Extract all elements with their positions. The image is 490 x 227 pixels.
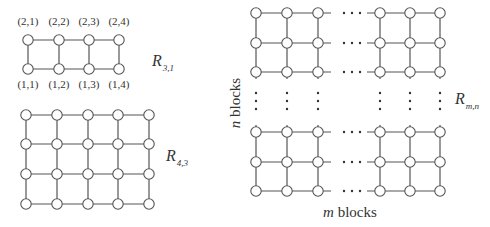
vertex-node — [375, 186, 385, 196]
vertex-node — [251, 8, 261, 18]
vertex-node — [405, 38, 415, 48]
horizontal-ellipsis-dot — [351, 12, 353, 14]
vertex-node — [282, 67, 292, 77]
vertex-label: (2,4) — [108, 15, 129, 28]
vertex-node — [21, 139, 31, 149]
horizontal-ellipsis-dot — [351, 190, 353, 192]
figure-svg: (2,1)(1,1)(2,2)(1,2)(2,3)(1,3)(2,4)(1,4)… — [0, 0, 490, 227]
vertex-node — [375, 8, 385, 18]
vertex-node — [435, 186, 445, 196]
vertex-node — [113, 169, 123, 179]
vertex-node — [113, 199, 123, 209]
vertex-node — [375, 127, 385, 137]
horizontal-ellipsis-dot — [351, 131, 353, 133]
vertex-node — [435, 8, 445, 18]
graph-name-label: Rm,n — [454, 90, 480, 111]
vertex-node — [405, 157, 415, 167]
vertex-node — [313, 157, 323, 167]
vertex-node — [52, 139, 62, 149]
vertex-node — [52, 110, 62, 120]
blocks-text: blocks — [334, 204, 377, 220]
vertex-node — [282, 186, 292, 196]
horizontal-ellipsis-dot — [359, 161, 361, 163]
vertex-node — [405, 8, 415, 18]
horizontal-ellipsis-dot — [351, 71, 353, 73]
vertical-ellipsis-dot — [255, 100, 257, 102]
vertex-node — [313, 38, 323, 48]
grid-graphs-figure: (2,1)(1,1)(2,2)(1,2)(2,3)(1,3)(2,4)(1,4)… — [0, 0, 490, 227]
vertical-ellipsis-dot — [255, 92, 257, 94]
horizontal-ellipsis-dot — [359, 190, 361, 192]
vertex-node — [114, 35, 124, 45]
vertex-node — [83, 139, 93, 149]
vertical-ellipsis-dot — [317, 108, 319, 110]
vertex-node — [251, 127, 261, 137]
horizontal-ellipsis-dot — [359, 42, 361, 44]
vertical-ellipsis-dot — [439, 100, 441, 102]
n-blocks-label: n blocks — [227, 78, 243, 129]
vertex-node — [435, 127, 445, 137]
vertex-node — [144, 199, 154, 209]
vertex-node — [84, 64, 94, 74]
vertex-node — [54, 35, 64, 45]
vertical-ellipsis-dot — [255, 108, 257, 110]
vertex-node — [282, 157, 292, 167]
vertex-label: (1,3) — [78, 78, 99, 91]
graph-name-label: R4,3 — [165, 147, 189, 168]
vertical-ellipsis-dot — [409, 92, 411, 94]
vertex-label: (2,3) — [78, 15, 99, 28]
vertical-ellipsis-dot — [286, 108, 288, 110]
vertex-node — [23, 35, 33, 45]
vertex-node — [313, 67, 323, 77]
vertex-label: (1,4) — [108, 78, 129, 91]
vertex-node — [113, 110, 123, 120]
horizontal-ellipsis-dot — [343, 42, 345, 44]
vertex-node — [435, 157, 445, 167]
horizontal-ellipsis-dot — [359, 71, 361, 73]
vertex-node — [84, 35, 94, 45]
horizontal-ellipsis-dot — [343, 71, 345, 73]
vertex-node — [21, 169, 31, 179]
vertex-node — [282, 8, 292, 18]
vertical-ellipsis-dot — [409, 100, 411, 102]
vertex-node — [144, 139, 154, 149]
vertex-node — [282, 127, 292, 137]
vertical-ellipsis-dot — [286, 100, 288, 102]
vertex-node — [375, 157, 385, 167]
graph-subscript: m,n — [466, 101, 480, 111]
vertex-node — [251, 38, 261, 48]
horizontal-ellipsis-dot — [343, 12, 345, 14]
m-variable: m — [323, 204, 334, 220]
horizontal-ellipsis-dot — [359, 131, 361, 133]
horizontal-ellipsis-dot — [343, 131, 345, 133]
vertex-node — [113, 139, 123, 149]
horizontal-ellipsis-dot — [343, 161, 345, 163]
graph-rmn: Rm,nm blocksn blocks — [227, 8, 480, 220]
vertex-node — [375, 67, 385, 77]
vertical-ellipsis-dot — [379, 108, 381, 110]
vertex-node — [83, 110, 93, 120]
vertex-node — [114, 64, 124, 74]
vertex-label: (1,1) — [17, 78, 38, 91]
vertical-ellipsis-dot — [317, 92, 319, 94]
vertical-ellipsis-dot — [286, 92, 288, 94]
vertex-node — [144, 110, 154, 120]
vertical-ellipsis-dot — [439, 92, 441, 94]
vertex-node — [282, 38, 292, 48]
vertex-node — [251, 67, 261, 77]
graph-r31: (2,1)(1,1)(2,2)(1,2)(2,3)(1,3)(2,4)(1,4)… — [17, 15, 174, 91]
vertex-label: (2,2) — [48, 15, 69, 28]
vertex-node — [83, 169, 93, 179]
vertex-node — [52, 169, 62, 179]
vertical-ellipsis-dot — [379, 100, 381, 102]
vertex-node — [313, 127, 323, 137]
vertex-node — [251, 157, 261, 167]
vertex-node — [435, 67, 445, 77]
horizontal-ellipsis-dot — [343, 190, 345, 192]
graph-subscript: 4,3 — [177, 158, 189, 168]
vertex-node — [21, 199, 31, 209]
vertex-node — [313, 186, 323, 196]
blocks-text: blocks — [227, 78, 243, 121]
vertex-node — [251, 186, 261, 196]
vertical-ellipsis-dot — [379, 92, 381, 94]
